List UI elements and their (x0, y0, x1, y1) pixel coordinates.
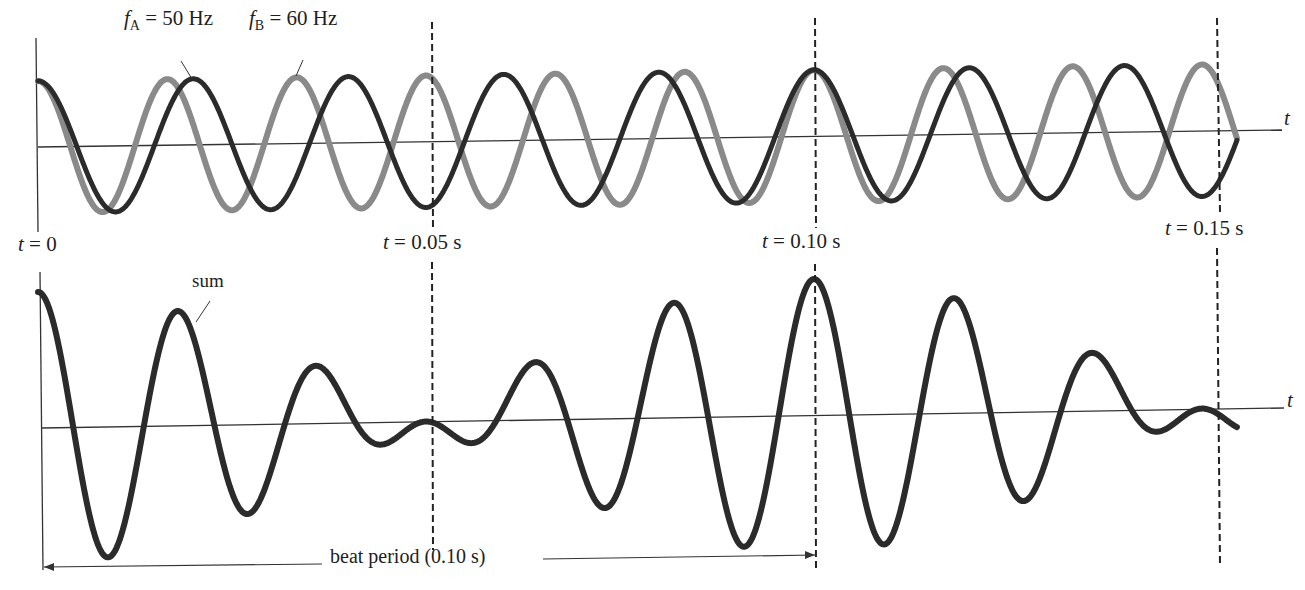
dashed-marker-line (432, 262, 433, 550)
top-t-axis (38, 130, 1282, 147)
label-sum: sum (192, 271, 224, 290)
top-y-axis (36, 38, 38, 232)
label-fa: fA = 50 Hz (124, 8, 213, 33)
arrow-right-head (805, 551, 815, 559)
top-panel (36, 38, 1282, 232)
bottom-t-axis (42, 408, 1284, 428)
dashed-marker-line (815, 18, 816, 228)
sum-wave (38, 279, 1237, 557)
fa-leader-line (181, 61, 192, 79)
bottom-panel (38, 272, 1284, 570)
label-t005: t = 0.05 s (383, 232, 461, 253)
beats-diagram (0, 0, 1305, 590)
sum-leader-line (196, 301, 210, 322)
label-t015: t = 0.15 s (1165, 218, 1243, 239)
bottom-axis-t-label: t (1287, 390, 1293, 411)
arrow-left-head (44, 563, 54, 571)
label-t010: t = 0.10 s (762, 231, 840, 252)
label-beat-period: beat period (0.10 s) (330, 546, 486, 566)
top-axis-t-label: t (1284, 108, 1290, 129)
dashed-marker-line (432, 22, 433, 230)
label-fb: fB = 60 Hz (249, 8, 337, 33)
fb-leader-line (296, 60, 303, 76)
label-t0: t = 0 (18, 234, 57, 255)
dashed-marker-line (1217, 248, 1220, 565)
bottom-y-axis (40, 272, 43, 570)
